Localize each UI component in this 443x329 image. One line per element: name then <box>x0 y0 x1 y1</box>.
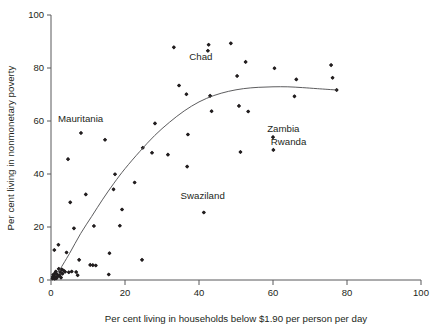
x-tick-label: 80 <box>342 287 353 298</box>
data-point-core <box>71 270 73 273</box>
data-point-core <box>240 151 242 154</box>
data-point-core <box>296 78 298 81</box>
data-point-core <box>54 249 56 252</box>
data-point-core <box>173 46 175 49</box>
y-axis-ticks: 020406080100 <box>28 9 51 285</box>
data-point-core <box>332 76 334 79</box>
y-tick-label: 80 <box>33 62 44 73</box>
data-point-core <box>245 60 247 63</box>
x-axis-group: 020406080100 <box>48 280 429 298</box>
y-axis-group: 020406080100 <box>28 9 51 285</box>
data-point-core <box>64 270 66 273</box>
x-tick-label: 20 <box>120 287 131 298</box>
data-point-core <box>119 224 121 227</box>
data-point-core <box>154 122 156 125</box>
data-point-core <box>59 274 61 277</box>
data-point-core <box>121 208 123 211</box>
x-tick-label: 100 <box>413 287 429 298</box>
data-point-core <box>73 227 75 230</box>
annotation-label-zambia: Zambia <box>267 123 300 134</box>
data-point-core <box>85 193 87 196</box>
data-point-series <box>50 41 338 280</box>
scatter-plot-figure: 020406080100 020406080100 ChadMauritania… <box>0 0 443 329</box>
x-axis-ticks: 020406080100 <box>48 280 429 298</box>
data-point-core <box>294 95 296 98</box>
data-point-core <box>211 110 213 113</box>
data-point-core <box>236 75 238 78</box>
data-point-core <box>230 42 232 45</box>
plot-canvas: 020406080100 020406080100 ChadMauritania… <box>0 0 443 329</box>
data-point-core <box>89 263 91 266</box>
data-point-core <box>151 151 153 154</box>
data-point-core <box>60 276 62 279</box>
y-axis-title: Per cent living in nonmonetary poverty <box>5 65 16 230</box>
data-point-core <box>238 104 240 107</box>
data-point-core <box>67 158 69 161</box>
data-point-core <box>186 165 188 168</box>
data-point-core <box>75 271 77 274</box>
data-point-core <box>104 138 106 141</box>
data-point-core <box>92 264 94 267</box>
data-point-core <box>273 148 275 151</box>
y-tick-label: 100 <box>28 9 44 20</box>
data-point-core <box>69 201 71 204</box>
x-tick-label: 0 <box>48 287 53 298</box>
annotation-label-rwanda: Rwanda <box>271 136 307 147</box>
data-point-core <box>186 93 188 96</box>
data-point-core <box>58 243 60 246</box>
data-point-core <box>113 188 115 191</box>
data-point-core <box>55 270 57 273</box>
data-point-core <box>68 271 70 274</box>
data-point-core <box>66 251 68 254</box>
data-point-core <box>141 258 143 261</box>
y-tick-label: 40 <box>33 168 44 179</box>
data-point-core <box>62 272 64 275</box>
annotation-label-mauritania: Mauritania <box>58 113 104 124</box>
data-point-core <box>203 211 205 214</box>
y-tick-label: 60 <box>33 115 44 126</box>
data-point-core <box>167 153 169 156</box>
y-tick-label: 0 <box>39 274 44 285</box>
x-axis-title: Per cent living in households below $1.9… <box>105 313 367 324</box>
data-point-core <box>77 274 79 277</box>
annotation-label-swaziland: Swaziland <box>181 190 225 201</box>
x-tick-label: 60 <box>268 287 279 298</box>
data-point-core <box>93 224 95 227</box>
data-point-core <box>80 131 82 134</box>
data-point-core <box>330 64 332 67</box>
data-point-core <box>187 133 189 136</box>
data-point-core <box>95 264 97 267</box>
x-tick-label: 40 <box>194 287 205 298</box>
annotation-label-chad: Chad <box>189 51 212 62</box>
data-point-core <box>60 271 62 274</box>
data-point-core <box>134 181 136 184</box>
data-point-core <box>78 258 80 261</box>
y-tick-label: 20 <box>33 221 44 232</box>
data-point-core <box>114 173 116 176</box>
data-point-core <box>108 273 110 276</box>
data-point-core <box>178 84 180 87</box>
data-point-core <box>247 110 249 113</box>
country-annotations: ChadMauritaniaSwazilandZambiaRwanda <box>58 51 307 201</box>
data-point-core <box>208 43 210 46</box>
data-point-core <box>274 67 276 70</box>
data-point-core <box>109 252 111 255</box>
